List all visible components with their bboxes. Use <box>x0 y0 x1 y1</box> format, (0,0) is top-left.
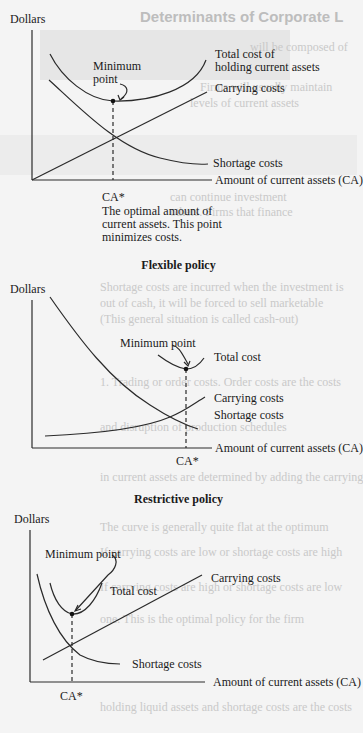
chart3-total-cost-label: Total cost <box>110 585 157 598</box>
chart2-min-label: Minimum point <box>120 337 196 350</box>
chart1-ca-star-label: CA* <box>102 191 125 204</box>
chart2-minimum-dot <box>184 367 189 372</box>
chart3-min-label: Minimum point <box>45 548 121 561</box>
chart3-title: Restrictive policy <box>0 492 357 507</box>
chart3-x-axis-label: Amount of current assets (CA) <box>213 676 361 689</box>
chart2-x-axis-label: Amount of current assets (CA) <box>215 442 363 455</box>
chart1-total-cost-label-line2: holding current assets <box>215 61 320 74</box>
chart1-plot <box>32 30 212 180</box>
chart2-title: Flexible policy <box>0 258 357 273</box>
chart1-shortage-label: Shortage costs <box>213 157 283 170</box>
chart3-y-axis-label: Dollars <box>14 513 49 526</box>
chart3-shortage-label: Shortage costs <box>132 658 202 671</box>
chart2-shortage-curve <box>50 297 198 429</box>
chart1-carrying-line <box>32 92 207 180</box>
chart1-y-axis-label: Dollars <box>10 13 45 26</box>
chart2-ca-star-label: CA* <box>176 455 199 468</box>
chart1-note-line3: minimizes costs. <box>102 231 182 244</box>
chart3-ca-star-label: CA* <box>60 690 83 703</box>
chart1-min-label-line2: point <box>93 73 118 86</box>
chart2-shortage-label: Shortage costs <box>214 409 284 422</box>
chart3-minimum-dot <box>70 612 75 617</box>
chart2-total-cost-label: Total cost <box>214 351 261 364</box>
chart2-plot <box>32 297 212 448</box>
chart3-shortage-curve <box>37 574 120 664</box>
chart2-carrying-label: Carrying costs <box>214 392 284 405</box>
chart3-carrying-label: Carrying costs <box>211 572 281 585</box>
chart3-min-arrow <box>76 555 116 610</box>
chart1-shortage-curve <box>49 80 208 164</box>
chart2-y-axis-label: Dollars <box>10 283 45 296</box>
chart1-minimum-dot <box>111 99 116 104</box>
chart1-x-axis-label: Amount of current assets (CA) <box>215 174 363 187</box>
chart1-min-arrowhead-icon <box>118 95 124 100</box>
chart2-total-cost-curve <box>158 355 204 369</box>
chart2-carrying-curve <box>45 397 205 436</box>
chart1-carrying-label: Carrying costs <box>215 82 285 95</box>
